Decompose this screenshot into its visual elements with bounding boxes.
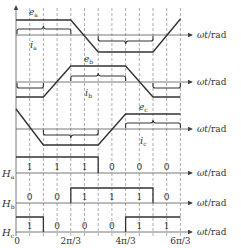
svg-text:1: 1 bbox=[136, 192, 142, 202]
svg-text:0: 0 bbox=[54, 192, 60, 202]
svg-text:0: 0 bbox=[82, 221, 88, 231]
svg-text:1: 1 bbox=[109, 192, 115, 202]
svg-text:ic: ic bbox=[140, 135, 147, 147]
svg-text:ωt/rad: ωt/rad bbox=[197, 198, 227, 208]
svg-text:ib: ib bbox=[85, 87, 92, 99]
svg-text:0: 0 bbox=[54, 221, 60, 231]
svg-text:ea: ea bbox=[29, 7, 38, 18]
svg-text:1: 1 bbox=[82, 162, 88, 172]
hall-c-signal: Hc 1 0 0 0 1 1 bbox=[1, 217, 180, 239]
svg-text:ωt/rad: ωt/rad bbox=[197, 227, 227, 237]
svg-text:ωt/rad: ωt/rad bbox=[197, 30, 227, 40]
svg-text:ωt/rad: ωt/rad bbox=[197, 168, 227, 178]
svg-text:0: 0 bbox=[136, 162, 142, 172]
svg-text:4π/3: 4π/3 bbox=[115, 236, 136, 246]
hall-b-signal: Hb 0 0 1 1 1 0 bbox=[1, 188, 170, 210]
x-tick-labels: 0 2π/3 4π/3 6π/3 bbox=[14, 236, 191, 246]
svg-text:1: 1 bbox=[164, 221, 170, 231]
svg-text:1: 1 bbox=[27, 221, 33, 231]
svg-text:0: 0 bbox=[109, 162, 115, 172]
svg-text:1: 1 bbox=[136, 221, 142, 231]
svg-text:Ha: Ha bbox=[1, 168, 15, 180]
svg-text:6π/3: 6π/3 bbox=[170, 236, 191, 246]
svg-text:0: 0 bbox=[164, 192, 170, 202]
axis-labels: ωt/rad ωt/rad ωt/rad ωt/rad ωt/rad ωt/ra… bbox=[197, 30, 227, 237]
time-axes bbox=[16, 35, 192, 232]
svg-text:eb: eb bbox=[84, 54, 93, 65]
svg-text:0: 0 bbox=[14, 236, 20, 246]
svg-text:1: 1 bbox=[82, 192, 88, 202]
dashed-grid-lines bbox=[30, 8, 181, 236]
svg-text:0: 0 bbox=[109, 221, 115, 231]
svg-text:ωt/rad: ωt/rad bbox=[197, 124, 227, 134]
svg-text:0: 0 bbox=[27, 192, 33, 202]
svg-text:Hc: Hc bbox=[1, 227, 15, 239]
current-a-brace bbox=[17, 26, 71, 34]
svg-text:2π/3: 2π/3 bbox=[61, 236, 82, 246]
svg-text:1: 1 bbox=[27, 162, 33, 172]
svg-text:Hb: Hb bbox=[1, 198, 15, 210]
svg-text:ωt/rad: ωt/rad bbox=[197, 77, 227, 87]
current-b-neg-brace-left bbox=[17, 83, 43, 88]
bldc-waveform-diagram: ωt/rad ωt/rad ωt/rad ωt/rad ωt/rad ωt/ra… bbox=[0, 0, 241, 248]
svg-text:0: 0 bbox=[164, 162, 170, 172]
svg-text:ia: ia bbox=[30, 39, 37, 51]
svg-text:1: 1 bbox=[54, 162, 60, 172]
svg-text:ec: ec bbox=[139, 102, 148, 113]
hall-a-signal: Ha 1 1 1 0 0 0 bbox=[1, 157, 170, 180]
